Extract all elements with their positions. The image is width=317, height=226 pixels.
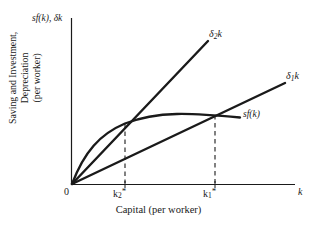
tick-label-k2-star-glyph: *: [122, 186, 127, 196]
curve-label-delta2-k: δ2k: [209, 28, 222, 41]
plot-canvas: [0, 0, 317, 226]
y-axis-title-line-1: Saving and Investment,: [7, 13, 19, 143]
tick-label-k1-star: k1*: [203, 186, 216, 201]
x-axis-title: Capital (per worker): [0, 204, 317, 216]
curve-label-delta1-k: δ1k: [286, 70, 299, 83]
y-axis-title: Saving and Investment, Depreciation (per…: [7, 13, 43, 143]
origin-tick-label: 0: [64, 186, 69, 197]
curve-label-delta2-tail: k: [217, 28, 221, 39]
tick-label-k2-star: k2*: [113, 186, 126, 201]
curve-label-delta1-tail: k: [294, 70, 298, 81]
curve-delta1-k: [72, 83, 285, 184]
tick-label-k1-star-glyph: *: [212, 186, 217, 196]
curve-delta2-k: [72, 41, 208, 184]
x-axis-symbol-label: k: [298, 186, 302, 197]
y-axis-title-line-2: Depreciation: [19, 13, 31, 143]
solow-model-figure: sf(k), δk Saving and Investment, Depreci…: [0, 0, 317, 226]
curve-label-sf-k: sf(k): [243, 109, 260, 120]
y-axis-title-line-3: (per worker): [31, 13, 43, 143]
